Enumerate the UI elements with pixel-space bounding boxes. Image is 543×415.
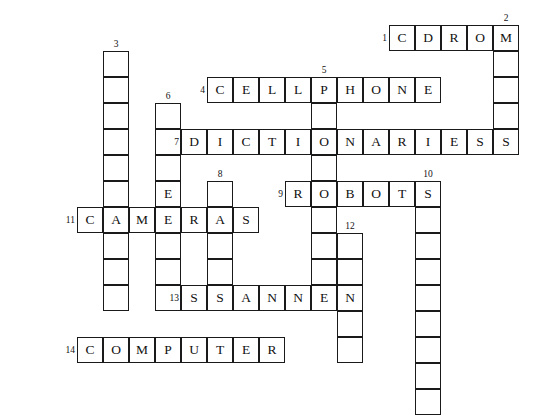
crossword-cell-empty[interactable] <box>415 259 441 285</box>
crossword-cell-letter[interactable]: L <box>259 77 285 103</box>
crossword-cell-empty[interactable] <box>103 155 129 181</box>
crossword-cell-empty[interactable] <box>103 77 129 103</box>
crossword-cell-empty[interactable] <box>103 129 129 155</box>
crossword-cell-empty[interactable] <box>311 103 337 129</box>
crossword-cell-empty[interactable] <box>311 155 337 181</box>
clue-number: 10 <box>415 170 441 180</box>
crossword-cell-empty[interactable] <box>207 233 233 259</box>
crossword-cell-letter[interactable]: C <box>77 207 103 233</box>
crossword-cell-letter[interactable]: U <box>181 337 207 363</box>
crossword-cell-empty[interactable] <box>415 233 441 259</box>
crossword-cell-letter[interactable]: I <box>207 129 233 155</box>
crossword-cell-empty[interactable] <box>155 259 181 285</box>
crossword-cell-empty[interactable] <box>493 103 519 129</box>
crossword-cell-empty[interactable] <box>415 311 441 337</box>
crossword-cell-letter[interactable]: R <box>181 207 207 233</box>
crossword-cell-empty[interactable] <box>155 155 181 181</box>
crossword-cell-letter[interactable]: S <box>207 285 233 311</box>
crossword-cell-letter[interactable]: E <box>233 77 259 103</box>
crossword-cell-empty[interactable] <box>337 311 363 337</box>
clue-number: 9 <box>273 190 283 200</box>
crossword-cell-letter[interactable]: O <box>363 77 389 103</box>
crossword-cell-letter[interactable]: M <box>129 207 155 233</box>
crossword-cell-letter[interactable]: O <box>311 181 337 207</box>
crossword-cell-letter[interactable]: S <box>467 129 493 155</box>
crossword-cell-letter[interactable]: M <box>493 25 519 51</box>
crossword-cell-letter[interactable]: R <box>285 181 311 207</box>
crossword-cell-letter[interactable]: C <box>233 129 259 155</box>
crossword-cell-empty[interactable] <box>103 285 129 311</box>
crossword-cell-letter[interactable]: I <box>285 129 311 155</box>
crossword-cell-empty[interactable] <box>337 233 363 259</box>
crossword-cell-letter[interactable]: A <box>233 285 259 311</box>
clue-number: 14 <box>65 346 75 356</box>
crossword-cell-letter[interactable]: H <box>337 77 363 103</box>
crossword-cell-letter[interactable]: N <box>259 285 285 311</box>
crossword-cell-letter[interactable]: S <box>493 129 519 155</box>
crossword-cell-empty[interactable] <box>103 103 129 129</box>
crossword-cell-letter[interactable]: A <box>103 207 129 233</box>
crossword-cell-letter[interactable]: E <box>155 207 181 233</box>
crossword-cell-letter[interactable]: O <box>311 129 337 155</box>
clue-number: 4 <box>195 86 205 96</box>
crossword-cell-letter[interactable]: M <box>129 337 155 363</box>
crossword-cell-empty[interactable] <box>337 259 363 285</box>
crossword-cell-letter[interactable]: E <box>441 129 467 155</box>
crossword-cell-empty[interactable] <box>311 233 337 259</box>
crossword-cell-letter[interactable]: L <box>285 77 311 103</box>
crossword-cell-letter[interactable]: N <box>389 77 415 103</box>
crossword-cell-letter[interactable]: S <box>233 207 259 233</box>
clue-number: 11 <box>65 216 75 226</box>
crossword-cell-empty[interactable] <box>311 259 337 285</box>
crossword-cell-letter[interactable]: T <box>207 337 233 363</box>
crossword-cell-letter[interactable]: D <box>415 25 441 51</box>
crossword-cell-letter[interactable]: C <box>77 337 103 363</box>
crossword-cell-letter[interactable]: A <box>363 129 389 155</box>
crossword-cell-letter[interactable]: R <box>441 25 467 51</box>
crossword-cell-empty[interactable] <box>415 337 441 363</box>
crossword-cell-empty[interactable] <box>103 233 129 259</box>
crossword-cell-empty[interactable] <box>103 51 129 77</box>
clue-number: 2 <box>493 14 519 24</box>
crossword-cell-letter[interactable]: S <box>415 181 441 207</box>
crossword-cell-letter[interactable]: R <box>389 129 415 155</box>
crossword-cell-letter[interactable]: E <box>155 181 181 207</box>
crossword-cell-letter[interactable]: T <box>389 181 415 207</box>
crossword-cell-letter[interactable]: N <box>337 129 363 155</box>
crossword-cell-empty[interactable] <box>493 77 519 103</box>
crossword-cell-letter[interactable]: N <box>337 285 363 311</box>
crossword-cell-letter[interactable]: N <box>285 285 311 311</box>
crossword-cell-empty[interactable] <box>493 51 519 77</box>
crossword-cell-letter[interactable]: O <box>103 337 129 363</box>
crossword-cell-letter[interactable]: P <box>155 337 181 363</box>
crossword-cell-letter[interactable]: A <box>207 207 233 233</box>
crossword-cell-empty[interactable] <box>415 363 441 389</box>
crossword-cell-letter[interactable]: E <box>415 77 441 103</box>
crossword-cell-empty[interactable] <box>103 259 129 285</box>
crossword-cell-empty[interactable] <box>415 285 441 311</box>
crossword-cell-letter[interactable]: C <box>207 77 233 103</box>
crossword-cell-empty[interactable] <box>311 207 337 233</box>
crossword-cell-letter[interactable]: C <box>389 25 415 51</box>
crossword-cell-empty[interactable] <box>207 181 233 207</box>
clue-number: 6 <box>155 92 181 102</box>
crossword-cell-letter[interactable]: B <box>337 181 363 207</box>
crossword-cell-empty[interactable] <box>155 103 181 129</box>
crossword-cell-empty[interactable] <box>207 259 233 285</box>
crossword-cell-letter[interactable]: O <box>467 25 493 51</box>
crossword-cell-empty[interactable] <box>155 233 181 259</box>
crossword-cell-letter[interactable]: S <box>181 285 207 311</box>
crossword-cell-empty[interactable] <box>415 389 441 415</box>
crossword-cell-letter[interactable]: E <box>311 285 337 311</box>
crossword-cell-letter[interactable]: E <box>233 337 259 363</box>
crossword-cell-letter[interactable]: D <box>181 129 207 155</box>
crossword-cell-letter[interactable]: T <box>259 129 285 155</box>
crossword-cell-letter[interactable]: P <box>311 77 337 103</box>
crossword-cell-letter[interactable]: R <box>259 337 285 363</box>
crossword-cell-letter[interactable]: I <box>415 129 441 155</box>
clue-number: 13 <box>169 294 179 304</box>
crossword-cell-empty[interactable] <box>337 337 363 363</box>
crossword-cell-empty[interactable] <box>415 207 441 233</box>
crossword-cell-empty[interactable] <box>103 181 129 207</box>
crossword-cell-letter[interactable]: O <box>363 181 389 207</box>
